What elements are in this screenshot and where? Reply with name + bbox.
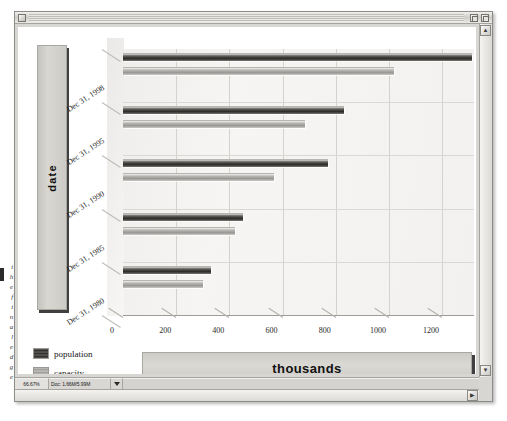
close-icon[interactable] (18, 14, 26, 22)
margin-note-glyph: t (0, 262, 13, 272)
chart-window[interactable]: date 020040060080010001200 Dec 31, 1998D… (14, 11, 493, 402)
x-axis-ticks: 020040060080010001200 (123, 315, 476, 337)
bar-capacity[interactable] (123, 121, 305, 128)
window-titlebar[interactable] (15, 12, 492, 24)
bar-capacity[interactable] (123, 174, 274, 181)
legend-item[interactable]: population (33, 347, 93, 360)
scroll-right-arrow-icon[interactable]: ▶ (467, 390, 478, 401)
scroll-down-arrow-icon[interactable]: ▼ (480, 365, 491, 376)
legend-swatch-capacity (33, 367, 49, 374)
x-tick-label: 1000 (370, 326, 386, 335)
bar-population[interactable] (123, 160, 328, 167)
bar-capacity[interactable] (123, 228, 235, 235)
status-popup-icon[interactable] (111, 378, 123, 389)
margin-note-glyph: e (0, 372, 13, 382)
margin-note-glyph: i (0, 302, 13, 312)
x-tick-label: 200 (159, 326, 171, 335)
horizontal-scrollbar[interactable]: ▶ (15, 389, 479, 401)
y-tick-label: Dec 31, 1998 (65, 83, 106, 114)
status-bar: 66.67% Doc: 1.66M/5.99M (15, 377, 479, 389)
bar-group (123, 262, 474, 315)
zoom-level-field[interactable]: 66.67% (15, 378, 49, 389)
y-tick-label: Dec 31, 1985 (65, 243, 106, 274)
book-page: thefinaledge date 020040060080010001200 (0, 0, 507, 421)
x-axis-title-label: thousands (272, 361, 341, 375)
margin-note-text: thefinaledge (0, 262, 14, 392)
margin-note-glyph: e (0, 282, 13, 292)
grow-window-icon[interactable] (481, 14, 489, 22)
y-axis-ticks: Dec 31, 1998Dec 31, 1995Dec 31, 1990Dec … (18, 27, 138, 327)
x-tick-label: 0 (110, 326, 114, 335)
chart-legend: populationcapacity (33, 347, 129, 374)
margin-note-glyph: h (0, 272, 13, 282)
vertical-scrollbar[interactable]: ▲ ▼ (479, 24, 492, 377)
zoom-window-icon[interactable] (470, 14, 478, 22)
margin-note-glyph: a (0, 322, 13, 332)
margin-note-glyph: f (0, 292, 13, 302)
legend-label: capacity (54, 368, 84, 375)
margin-note-glyph: n (0, 312, 13, 322)
bar-group (123, 49, 474, 102)
y-tick-label: Dec 31, 1980 (65, 296, 106, 327)
scroll-up-arrow-icon[interactable]: ▲ (480, 25, 491, 36)
chart-canvas[interactable]: date 020040060080010001200 Dec 31, 1998D… (18, 27, 476, 374)
document-size-field: Doc: 1.66M/5.99M (49, 378, 111, 389)
margin-note-glyph: g (0, 362, 13, 372)
bar-group (123, 155, 474, 208)
x-tick-label: 600 (266, 326, 278, 335)
y-tick-label: Dec 31, 1995 (65, 136, 106, 167)
x-axis-title-panel[interactable]: thousands (142, 352, 472, 374)
titlebar-stripes (29, 14, 464, 22)
bar-population[interactable] (123, 107, 344, 114)
margin-note-glyph: d (0, 352, 13, 362)
y-tick-label: Dec 31, 1990 (65, 189, 106, 220)
bar-population[interactable] (123, 54, 472, 61)
x-tick-label: 1200 (423, 326, 439, 335)
status-filler (123, 378, 479, 389)
legend-label: population (54, 349, 93, 359)
bar-group (123, 102, 474, 155)
margin-note-glyph: e (0, 342, 13, 352)
margin-note-glyph: l (0, 332, 13, 342)
bar-capacity[interactable] (123, 68, 394, 75)
x-tick-label: 400 (212, 326, 224, 335)
bar-group (123, 209, 474, 262)
legend-item[interactable]: capacity (33, 366, 84, 374)
x-tick-label: 800 (319, 326, 331, 335)
legend-swatch-population (33, 348, 49, 359)
plot-area (123, 49, 474, 315)
bar-population[interactable] (123, 214, 243, 221)
